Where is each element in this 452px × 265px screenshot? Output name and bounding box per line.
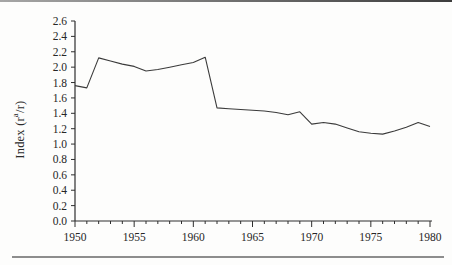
- y-axis-label: Index (ra/r): [10, 80, 27, 180]
- y-tick-label: 0.8: [53, 153, 68, 165]
- x-tick-label: 1970: [300, 231, 323, 243]
- figure-page: Index (ra/r) 0.00.20.40.60.81.01.21.41.6…: [0, 0, 452, 265]
- y-axis-label-sup: a: [10, 113, 20, 117]
- y-axis-label-post: /r): [13, 101, 27, 113]
- y-tick-label: 1.4: [53, 107, 68, 119]
- x-tick-label: 1950: [64, 231, 87, 243]
- x-tick-label: 1955: [123, 231, 146, 243]
- y-tick-label: 1.0: [53, 138, 68, 150]
- x-tick-label: 1960: [182, 231, 205, 243]
- y-tick-label: 2.4: [53, 30, 68, 42]
- y-tick-label: 0.4: [53, 184, 68, 196]
- plot-area: 0.00.20.40.60.81.01.21.41.61.82.02.22.42…: [0, 0, 452, 265]
- x-tick-label: 1975: [359, 231, 382, 243]
- y-tick-label: 2.2: [53, 46, 68, 58]
- y-tick-label: 2.6: [53, 15, 68, 27]
- y-tick-label: 1.2: [53, 123, 68, 135]
- y-axis-label-pre: Index (r: [13, 117, 27, 159]
- y-tick-label: 0.6: [53, 169, 68, 181]
- y-tick-label: 2.0: [53, 61, 68, 73]
- y-tick-label: 1.6: [53, 92, 68, 104]
- y-tick-label: 1.8: [53, 77, 68, 89]
- x-tick-label: 1965: [241, 231, 264, 243]
- data-series-line: [75, 57, 430, 134]
- x-tick-label: 1980: [419, 231, 442, 243]
- bottom-rule: [12, 256, 444, 258]
- y-tick-label: 0.2: [53, 200, 68, 212]
- y-tick-label: 0.0: [53, 215, 68, 227]
- line-chart: Index (ra/r) 0.00.20.40.60.81.01.21.41.6…: [0, 0, 452, 265]
